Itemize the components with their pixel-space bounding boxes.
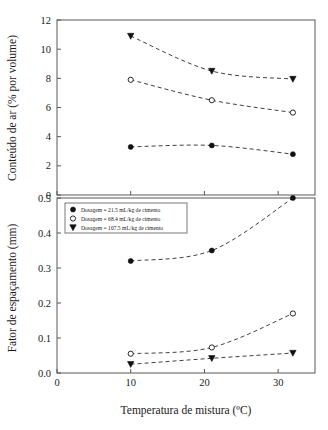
y-axis-title-top: Conteúdo de ar (% por volume) [6, 35, 19, 181]
data-point-filled-triangle [290, 350, 296, 356]
y-axis-tick-label: 8 [46, 73, 51, 84]
data-point-filled-circle [71, 207, 76, 212]
data-point-open-circle [290, 311, 295, 316]
two-panel-line-chart: 024681012 0.00.10.20.30.40.50102030 Dosa… [0, 0, 328, 430]
series-line [131, 80, 293, 113]
y-axis-tick-label: 0.3 [38, 263, 51, 274]
data-point-open-circle [70, 216, 75, 221]
legend-entry-label: Dosagem = 107.5 mL/kg de cimento [81, 225, 163, 231]
x-axis-title: Temperatura de mistura (ºC) [121, 404, 252, 417]
data-point-open-circle [209, 345, 214, 350]
data-point-open-circle [290, 110, 295, 115]
y-axis-tick-label: 0.2 [38, 298, 51, 309]
x-axis-tick-label: 0 [54, 377, 59, 388]
data-point-filled-circle [290, 196, 295, 201]
data-point-filled-circle [128, 259, 133, 264]
y-axis-tick-label: 0.1 [38, 333, 51, 344]
data-point-filled-circle [209, 143, 214, 148]
data-point-filled-triangle [128, 33, 134, 39]
figure-container: 024681012 0.00.10.20.30.40.50102030 Dosa… [0, 0, 328, 430]
data-point-open-circle [209, 98, 214, 103]
chart-legend: Dosagem = 21.5 mL/kg de cimentoDosagem =… [65, 203, 187, 233]
y-axis-tick-label: 10 [41, 44, 52, 55]
data-point-filled-circle [209, 248, 214, 253]
data-point-filled-triangle [209, 68, 215, 74]
y-axis-tick-label: 0.4 [38, 228, 52, 239]
data-point-open-circle [128, 351, 133, 356]
y-axis-tick-label: 0.5 [38, 193, 51, 204]
legend-entry-label: Dosagem = 68.4 mL/kg de cimento [81, 216, 160, 222]
y-axis-tick-label: 4 [46, 131, 52, 142]
y-axis-tick-label: 2 [46, 160, 51, 171]
legend-entry-label: Dosagem = 21.5 mL/kg de cimento [81, 207, 160, 213]
x-axis-tick-label: 10 [125, 377, 136, 388]
plot-frame [57, 20, 315, 195]
data-point-filled-circle [290, 152, 295, 157]
panel-air-content: 024681012 [41, 15, 316, 201]
y-axis-tick-label: 12 [41, 15, 52, 26]
y-axis-tick-label: 0.0 [38, 368, 51, 379]
x-axis-tick-label: 20 [199, 377, 210, 388]
data-point-filled-triangle [290, 76, 296, 82]
data-point-filled-circle [128, 144, 133, 149]
y-axis-tick-label: 6 [46, 102, 51, 113]
x-axis-tick-label: 30 [273, 377, 284, 388]
data-point-open-circle [128, 77, 133, 82]
y-axis-title-bottom: Fator de espaçamento (mm) [6, 223, 19, 352]
